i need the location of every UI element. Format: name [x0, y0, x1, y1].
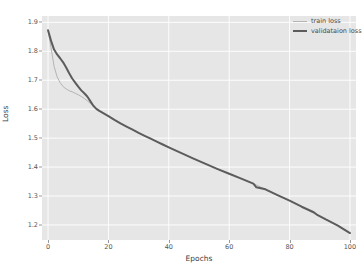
- x-tick-label: 60: [214, 244, 244, 251]
- x-tick-mark: [108, 240, 109, 243]
- plot-area: [42, 16, 356, 240]
- y-axis-title: Loss: [2, 94, 10, 134]
- y-tick-label: 1.4: [14, 164, 38, 171]
- y-tick-label: 1.2: [14, 222, 38, 229]
- series-path: [48, 30, 350, 233]
- chart-figure: 1.21.31.41.51.61.71.81.9 020406080100 Ep…: [0, 0, 364, 273]
- x-tick-label: 20: [93, 244, 123, 251]
- legend-line-swatch-icon: [293, 30, 307, 32]
- legend-label: validataion loss: [311, 28, 362, 35]
- x-tick-label: 100: [335, 244, 364, 251]
- series-lines: [42, 16, 356, 240]
- x-axis-title: Epochs: [42, 255, 356, 263]
- y-tick-mark: [39, 51, 42, 52]
- y-tick-label: 1.3: [14, 193, 38, 200]
- x-tick-mark: [350, 240, 351, 243]
- y-tick-label: 1.7: [14, 77, 38, 84]
- y-tick-label: 1.5: [14, 135, 38, 142]
- y-tick-mark: [39, 138, 42, 139]
- x-tick-mark: [48, 240, 49, 243]
- legend-item-validation-loss: validataion loss: [293, 28, 362, 35]
- y-tick-label: 1.9: [14, 19, 38, 26]
- x-tick-label: 40: [154, 244, 184, 251]
- legend-label: train loss: [311, 18, 341, 25]
- x-tick-mark: [229, 240, 230, 243]
- y-tick-mark: [39, 109, 42, 110]
- y-tick-label: 1.8: [14, 48, 38, 55]
- x-tick-label: 80: [275, 244, 305, 251]
- legend-line-swatch-icon: [293, 21, 307, 22]
- series-path: [48, 30, 350, 233]
- x-tick-label: 0: [33, 244, 63, 251]
- x-tick-mark: [169, 240, 170, 243]
- y-tick-mark: [39, 224, 42, 225]
- y-tick-mark: [39, 22, 42, 23]
- y-tick-mark: [39, 80, 42, 81]
- y-tick-label: 1.6: [14, 106, 38, 113]
- chart-legend: train loss validataion loss: [291, 17, 364, 35]
- x-tick-mark: [290, 240, 291, 243]
- legend-item-train-loss: train loss: [293, 18, 362, 25]
- y-tick-mark: [39, 167, 42, 168]
- y-tick-mark: [39, 196, 42, 197]
